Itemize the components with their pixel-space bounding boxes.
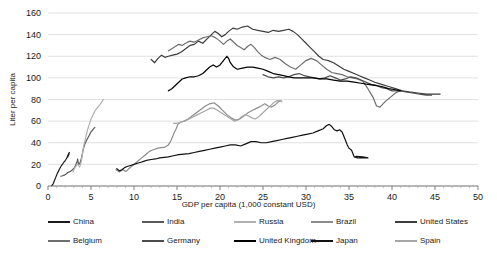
legend-item-india[interactable]: India <box>142 213 184 231</box>
series-line-japan <box>117 124 368 170</box>
y-tick-label: 20 <box>31 160 41 170</box>
y-tick-label: 0 <box>36 181 41 191</box>
legend-swatch-icon <box>48 240 70 242</box>
legend-label: China <box>73 217 94 227</box>
y-tick-label: 60 <box>31 116 41 126</box>
legend-label: United Kingdom <box>259 236 316 246</box>
legend-item-germany[interactable]: Germany <box>142 232 200 250</box>
legend-row: BelgiumGermanyUnited KingdomJapanSpain <box>0 232 497 250</box>
legend-label: United States <box>420 217 468 227</box>
series-line-brazil <box>116 101 281 172</box>
legend-swatch-icon <box>395 221 417 223</box>
legend-label: Germany <box>167 236 200 246</box>
legend-item-brazil[interactable]: Brazil <box>311 213 356 231</box>
legend-label: Russia <box>259 217 283 227</box>
y-tick-label: 140 <box>26 30 41 40</box>
series-line-united-states <box>151 26 440 94</box>
y-axis-title: Liter per capita <box>8 55 17 145</box>
y-tick-label: 80 <box>31 95 41 105</box>
legend-swatch-icon <box>142 240 164 242</box>
legend-row: ChinaIndiaRussiaBrazilUnited States <box>0 213 497 231</box>
series-line-india <box>61 128 95 177</box>
y-tick-label: 160 <box>26 8 41 18</box>
legend-item-united-states[interactable]: United States <box>395 213 468 231</box>
series-line-belgium <box>168 36 399 107</box>
legend-item-belgium[interactable]: Belgium <box>48 232 102 250</box>
legend-label: India <box>167 217 184 227</box>
legend-swatch-icon <box>395 240 417 242</box>
legend-label: Brazil <box>336 217 356 227</box>
legend-swatch-icon <box>311 240 333 242</box>
legend-label: Japan <box>336 236 358 246</box>
chart-legend: ChinaIndiaRussiaBrazilUnited StatesBelgi… <box>0 213 497 255</box>
series-line-china <box>52 152 69 185</box>
y-tick-label: 100 <box>26 73 41 83</box>
chart-container: 0204060801001201401600510152025303540455… <box>0 0 497 258</box>
legend-item-china[interactable]: China <box>48 213 94 231</box>
legend-swatch-icon <box>234 221 256 223</box>
legend-item-spain[interactable]: Spain <box>395 232 440 250</box>
legend-label: Belgium <box>73 236 102 246</box>
y-tick-label: 40 <box>31 138 41 148</box>
legend-swatch-icon <box>48 221 70 223</box>
legend-swatch-icon <box>311 221 333 223</box>
legend-item-japan[interactable]: Japan <box>311 232 358 250</box>
x-axis-title: GDP per capita (1,000 constant USD) <box>0 200 497 209</box>
legend-item-russia[interactable]: Russia <box>234 213 283 231</box>
legend-label: Spain <box>420 236 440 246</box>
legend-swatch-icon <box>142 221 164 223</box>
legend-swatch-icon <box>234 240 256 242</box>
legend-item-united-kingdom[interactable]: United Kingdom <box>234 232 316 250</box>
y-tick-label: 120 <box>26 51 41 61</box>
